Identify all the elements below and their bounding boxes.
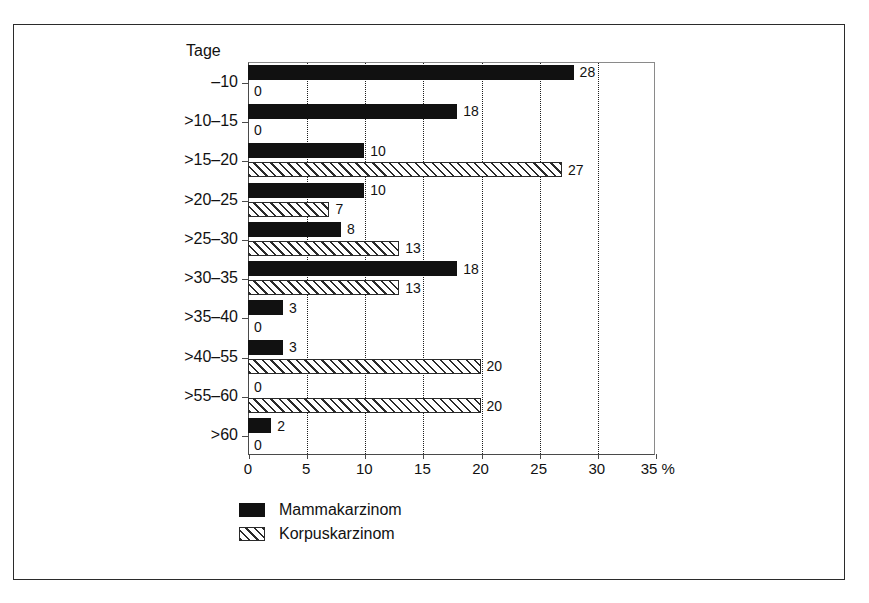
bar-korpuskarzinom [248,202,329,217]
x-axis-tick [656,454,657,459]
y-axis-tick [242,318,249,319]
bar-value-label: 10 [370,143,386,159]
bar-korpuskarzinom [248,162,562,177]
y-axis-tick [242,122,249,123]
hatched-swatch-icon [239,527,265,541]
x-gridline [423,63,424,454]
bar-value-label: 8 [347,221,355,237]
x-axis-tick [598,454,599,459]
y-axis-category-label: >40–55 [184,348,238,366]
bar-value-label: 13 [405,240,421,256]
bar-mammakarzinom [248,65,574,80]
y-axis-category-label: >20–25 [184,191,238,209]
bar-mammakarzinom [248,104,457,119]
legend-label: Mammakarzinom [279,501,402,519]
x-gridline [540,63,541,454]
bar-value-label: 28 [580,64,596,80]
bar-value-label: 0 [254,83,262,99]
bar-value-label: 10 [370,182,386,198]
x-gridline [365,63,366,454]
bar-value-label: 13 [405,280,421,296]
y-axis-title: Tage [186,42,221,60]
x-gridline [307,63,308,454]
y-axis-category-label: >35–40 [184,308,238,326]
legend-label: Korpuskarzinom [279,525,395,543]
x-axis-tick-label: 5 [302,460,310,477]
x-axis-tick [540,454,541,459]
y-axis-category-label: >25–30 [184,230,238,248]
y-axis-category-label: >15–20 [184,151,238,169]
y-axis-category-label: >30–35 [184,269,238,287]
bar-korpuskarzinom [248,241,399,256]
y-axis-tick [242,436,249,437]
legend-item-korpuskarzinom: Korpuskarzinom [239,522,402,546]
bar-value-label: 2 [277,418,285,434]
bar-mammakarzinom [248,300,283,315]
bar-korpuskarzinom [248,359,481,374]
bar-value-label: 20 [487,398,503,414]
bar-value-label: 18 [463,261,479,277]
x-axis-tick [249,454,250,459]
bar-korpuskarzinom [248,280,399,295]
y-axis-category-label: –10 [211,73,238,91]
bar-value-label: 18 [463,103,479,119]
y-axis-category-label: >10–15 [184,112,238,130]
y-axis-category-label: >60 [211,426,238,444]
bar-value-label: 20 [487,358,503,374]
bar-value-label: 0 [254,319,262,335]
bar-value-label: 3 [289,339,297,355]
bar-mammakarzinom [248,143,364,158]
bar-mammakarzinom [248,183,364,198]
bar-korpuskarzinom [248,398,481,413]
x-axis-tick-label: 10 [356,460,373,477]
bar-mammakarzinom [248,222,341,237]
solid-black-swatch-icon [239,503,265,517]
x-gridline [598,63,599,454]
bar-mammakarzinom [248,340,283,355]
x-gridline [482,63,483,454]
y-axis-category-label: >55–60 [184,387,238,405]
x-axis-tick-label: 15 [414,460,431,477]
bar-value-label: 0 [254,379,262,395]
x-axis-tick-label: 20 [472,460,489,477]
x-axis-tick-label: 35 % [641,460,675,477]
bar-mammakarzinom [248,261,457,276]
bar-value-label: 27 [568,162,584,178]
chart-legend: Mammakarzinom Korpuskarzinom [239,498,402,546]
x-axis-tick-label: 30 [589,460,606,477]
x-axis-tick [482,454,483,459]
x-axis-tick [365,454,366,459]
bar-value-label: 3 [289,300,297,316]
x-axis-tick-label: 0 [244,460,252,477]
bar-value-label: 7 [335,201,343,217]
x-axis-tick-label: 25 [530,460,547,477]
y-axis-tick [242,83,249,84]
bar-mammakarzinom [248,418,271,433]
bar-value-label: 0 [254,437,262,453]
plot-area [248,62,655,455]
bar-chart: Tage 05101520253035 %–10280>10–15180>15–… [0,0,869,603]
legend-item-mammakarzinom: Mammakarzinom [239,498,402,522]
x-axis-tick [307,454,308,459]
x-axis-tick [423,454,424,459]
bar-value-label: 0 [254,122,262,138]
